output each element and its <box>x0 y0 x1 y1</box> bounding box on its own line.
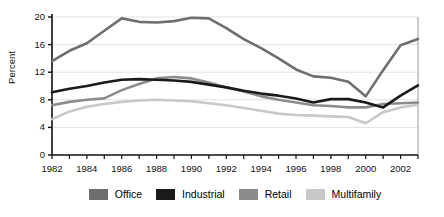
series-line-office <box>52 18 418 97</box>
legend-swatch-industrial <box>156 189 175 200</box>
legend-label-multifamily: Multifamily <box>332 188 382 200</box>
legend-item-multifamily[interactable]: Multifamily <box>306 188 382 200</box>
legend-swatch-retail <box>239 189 258 200</box>
x-tick-label-2002: 2002 <box>381 163 421 174</box>
legend-label-retail: Retail <box>265 188 292 200</box>
y-tick-label-16: 16 <box>25 40 45 50</box>
legend-swatch-multifamily <box>306 189 325 200</box>
legend-item-industrial[interactable]: Industrial <box>156 188 225 200</box>
legend-item-office[interactable]: Office <box>89 188 142 200</box>
chart-legend: OfficeIndustrialRetailMultifamily <box>52 185 418 203</box>
legend-label-office: Office <box>115 188 142 200</box>
vacancy-rate-line-chart: Percent 048121620 1982198419861988199019… <box>0 0 444 217</box>
y-tick-label-20: 20 <box>25 12 45 22</box>
y-tick-label-8: 8 <box>25 95 45 105</box>
y-tick-label-12: 12 <box>25 67 45 77</box>
legend-item-retail[interactable]: Retail <box>239 188 292 200</box>
legend-swatch-office <box>89 189 108 200</box>
legend-label-industrial: Industrial <box>182 188 225 200</box>
y-tick-label-4: 4 <box>25 122 45 132</box>
y-tick-label-0: 0 <box>25 150 45 160</box>
y-axis-title: Percent <box>6 38 17 98</box>
